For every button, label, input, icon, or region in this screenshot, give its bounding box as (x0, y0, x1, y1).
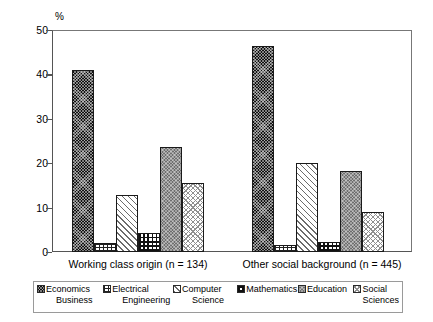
legend-swatch-social-sciences (353, 285, 361, 293)
y-tick-10: 10 (24, 203, 48, 213)
bar-g0-electrical-engineering (94, 243, 116, 252)
legend-swatch-electrical-engineering (103, 285, 111, 293)
bar-g0-computer-science (116, 195, 138, 252)
legend-item-mathematics: Mathematics (237, 284, 298, 295)
bar-g1-mathematics (318, 242, 340, 252)
group-label-working-class: Working class origin (n = 134) (52, 258, 224, 270)
legend-item-economics-business: Economics Business (37, 284, 103, 306)
legend-swatch-education (298, 285, 306, 293)
y-axis-unit-label: % (55, 12, 64, 22)
legend-label-computer-line1: Computer (182, 284, 224, 295)
legend-label-social-line2: Sciences (362, 295, 399, 306)
legend-label-education-line1: Education (307, 284, 347, 295)
legend-swatch-computer-science (173, 285, 181, 293)
legend-label-social-line1: Social (362, 284, 399, 295)
legend-label-electrical-line1: Electrical (112, 284, 170, 295)
bar-g1-computer-science (296, 163, 318, 252)
bar-g0-social-sciences (182, 183, 204, 252)
legend-label-electrical-line2: Engineering (112, 295, 170, 306)
bar-g0-mathematics (138, 233, 160, 252)
y-tick-40: 40 (24, 69, 48, 79)
legend: Economics Business Electrical Engineerin… (33, 281, 403, 313)
legend-swatch-mathematics (237, 285, 245, 293)
y-tick-0: 0 (24, 247, 48, 257)
y-tick-30: 30 (24, 114, 48, 124)
legend-label-computer-line2: Science (182, 295, 224, 306)
bars-layer (52, 30, 412, 252)
bar-chart: % 50 40 30 20 10 0 Working class origin … (0, 0, 433, 322)
y-tick-20: 20 (24, 158, 48, 168)
bar-g1-social-sciences (362, 212, 384, 252)
bar-g0-economics-business (72, 70, 94, 252)
legend-item-electrical-engineering: Electrical Engineering (103, 284, 173, 306)
legend-label-mathematics-line1: Mathematics (246, 284, 297, 295)
legend-label-economics-line1: Economics (46, 284, 93, 295)
legend-item-computer-science: Computer Science (173, 284, 237, 306)
legend-swatch-economics-business (37, 285, 45, 293)
y-tick-mark-0 (46, 252, 52, 253)
legend-item-social-sciences: Social Sciences (353, 284, 399, 306)
bar-g0-education (160, 147, 182, 252)
y-axis-tick-labels: 50 40 30 20 10 0 (20, 30, 48, 252)
legend-item-education: Education (298, 284, 353, 295)
group-label-other-social: Other social background (n = 445) (232, 258, 412, 270)
bar-g1-economics-business (252, 46, 274, 252)
legend-label-economics-line2: Business (46, 295, 93, 306)
y-tick-50: 50 (24, 25, 48, 35)
bar-g1-electrical-engineering (274, 245, 296, 252)
bar-g1-education (340, 171, 362, 252)
